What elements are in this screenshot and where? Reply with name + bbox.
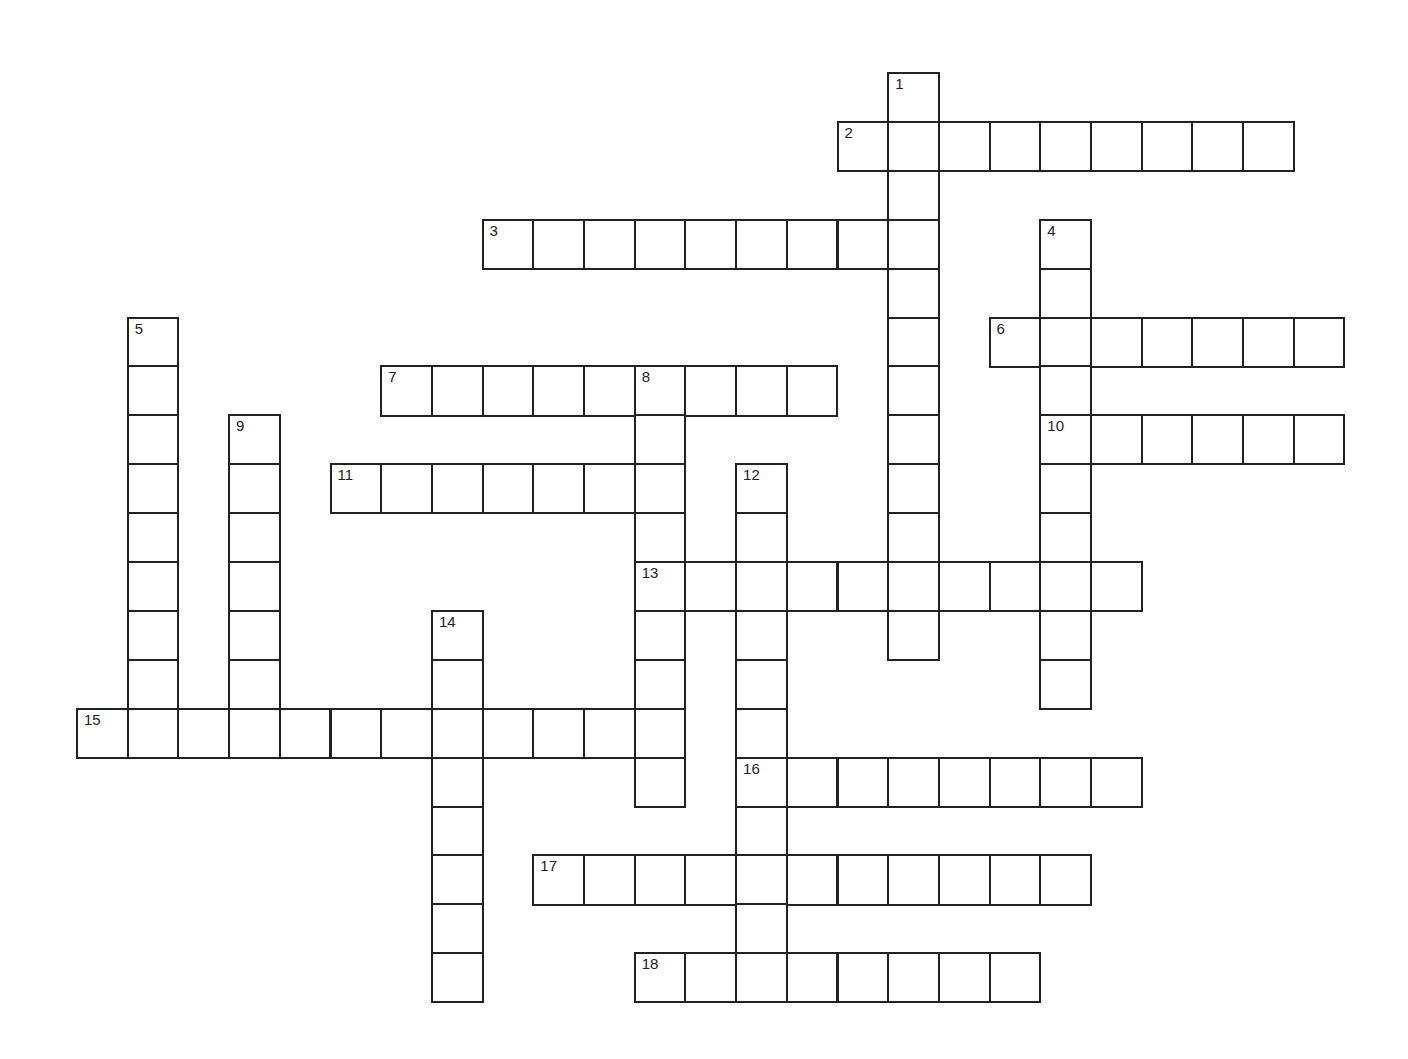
crossword-cell[interactable]: [887, 414, 940, 465]
crossword-cell[interactable]: [735, 903, 788, 954]
crossword-cell[interactable]: 15: [76, 708, 129, 759]
crossword-cell[interactable]: [1242, 317, 1295, 368]
crossword-cell[interactable]: [634, 414, 687, 465]
crossword-cell[interactable]: [634, 610, 687, 661]
crossword-cell[interactable]: [1141, 317, 1194, 368]
crossword-cell[interactable]: [482, 463, 535, 514]
crossword-cell[interactable]: [989, 952, 1042, 1003]
crossword-cell[interactable]: [684, 854, 737, 905]
crossword-cell[interactable]: [634, 219, 687, 270]
crossword-cell[interactable]: [1242, 121, 1295, 172]
crossword-cell[interactable]: [634, 757, 687, 808]
crossword-cell[interactable]: [634, 512, 687, 563]
crossword-cell[interactable]: [380, 708, 433, 759]
crossword-cell[interactable]: [735, 952, 788, 1003]
crossword-cell[interactable]: [1039, 317, 1092, 368]
crossword-cell[interactable]: [1141, 121, 1194, 172]
crossword-cell[interactable]: [735, 365, 788, 416]
crossword-cell[interactable]: [735, 659, 788, 710]
crossword-cell[interactable]: [938, 561, 991, 612]
crossword-cell[interactable]: [127, 414, 180, 465]
crossword-cell[interactable]: [1039, 512, 1092, 563]
crossword-cell[interactable]: [887, 952, 940, 1003]
crossword-cell[interactable]: 4: [1039, 219, 1092, 270]
crossword-cell[interactable]: 18: [634, 952, 687, 1003]
crossword-cell[interactable]: [127, 512, 180, 563]
crossword-cell[interactable]: [837, 219, 890, 270]
crossword-cell[interactable]: 17: [532, 854, 585, 905]
crossword-cell[interactable]: [634, 854, 687, 905]
crossword-cell[interactable]: [532, 219, 585, 270]
crossword-cell[interactable]: [887, 610, 940, 661]
crossword-cell[interactable]: 5: [127, 317, 180, 368]
crossword-cell[interactable]: [583, 365, 636, 416]
crossword-cell[interactable]: [431, 757, 484, 808]
crossword-cell[interactable]: [1090, 414, 1143, 465]
crossword-cell[interactable]: [989, 561, 1042, 612]
crossword-cell[interactable]: [228, 659, 281, 710]
crossword-cell[interactable]: [1039, 121, 1092, 172]
crossword-cell[interactable]: [228, 708, 281, 759]
crossword-cell[interactable]: [1090, 121, 1143, 172]
crossword-cell[interactable]: [938, 757, 991, 808]
crossword-cell[interactable]: [887, 854, 940, 905]
crossword-cell[interactable]: [1191, 414, 1244, 465]
crossword-cell[interactable]: 2: [837, 121, 890, 172]
crossword-cell[interactable]: [786, 854, 839, 905]
crossword-cell[interactable]: [583, 854, 636, 905]
crossword-cell[interactable]: [228, 610, 281, 661]
crossword-cell[interactable]: [127, 708, 180, 759]
crossword-cell[interactable]: [938, 121, 991, 172]
crossword-cell[interactable]: [1039, 659, 1092, 710]
crossword-cell[interactable]: [228, 463, 281, 514]
crossword-cell[interactable]: [887, 561, 940, 612]
crossword-cell[interactable]: [1242, 414, 1295, 465]
crossword-cell[interactable]: [887, 317, 940, 368]
crossword-cell[interactable]: [989, 757, 1042, 808]
crossword-cell[interactable]: [583, 219, 636, 270]
crossword-cell[interactable]: [837, 952, 890, 1003]
crossword-cell[interactable]: 7: [380, 365, 433, 416]
crossword-cell[interactable]: [1090, 561, 1143, 612]
crossword-cell[interactable]: [228, 512, 281, 563]
crossword-cell[interactable]: [127, 659, 180, 710]
crossword-cell[interactable]: [380, 463, 433, 514]
crossword-cell[interactable]: [887, 219, 940, 270]
crossword-cell[interactable]: [837, 561, 890, 612]
crossword-cell[interactable]: [786, 561, 839, 612]
crossword-cell[interactable]: [735, 561, 788, 612]
crossword-cell[interactable]: [735, 708, 788, 759]
crossword-cell[interactable]: [887, 512, 940, 563]
crossword-cell[interactable]: [1141, 414, 1194, 465]
crossword-cell[interactable]: 12: [735, 463, 788, 514]
crossword-cell[interactable]: [634, 463, 687, 514]
crossword-cell[interactable]: [1293, 317, 1346, 368]
crossword-cell[interactable]: [1039, 365, 1092, 416]
crossword-cell[interactable]: [1039, 463, 1092, 514]
crossword-cell[interactable]: [1039, 268, 1092, 319]
crossword-cell[interactable]: [431, 708, 484, 759]
crossword-cell[interactable]: [1191, 121, 1244, 172]
crossword-cell[interactable]: [735, 806, 788, 857]
crossword-cell[interactable]: [684, 952, 737, 1003]
crossword-cell[interactable]: 14: [431, 610, 484, 661]
crossword-cell[interactable]: [1293, 414, 1346, 465]
crossword-cell[interactable]: [583, 463, 636, 514]
crossword-cell[interactable]: [431, 463, 484, 514]
crossword-cell[interactable]: [279, 708, 332, 759]
crossword-cell[interactable]: [431, 903, 484, 954]
crossword-cell[interactable]: [228, 561, 281, 612]
crossword-cell[interactable]: [127, 561, 180, 612]
crossword-cell[interactable]: [938, 854, 991, 905]
crossword-cell[interactable]: [532, 365, 585, 416]
crossword-cell[interactable]: [1039, 757, 1092, 808]
crossword-cell[interactable]: [887, 365, 940, 416]
crossword-cell[interactable]: 8: [634, 365, 687, 416]
crossword-cell[interactable]: [735, 610, 788, 661]
crossword-cell[interactable]: [177, 708, 230, 759]
crossword-cell[interactable]: [532, 708, 585, 759]
crossword-cell[interactable]: [837, 854, 890, 905]
crossword-cell[interactable]: [634, 659, 687, 710]
crossword-cell[interactable]: [482, 365, 535, 416]
crossword-cell[interactable]: [127, 463, 180, 514]
